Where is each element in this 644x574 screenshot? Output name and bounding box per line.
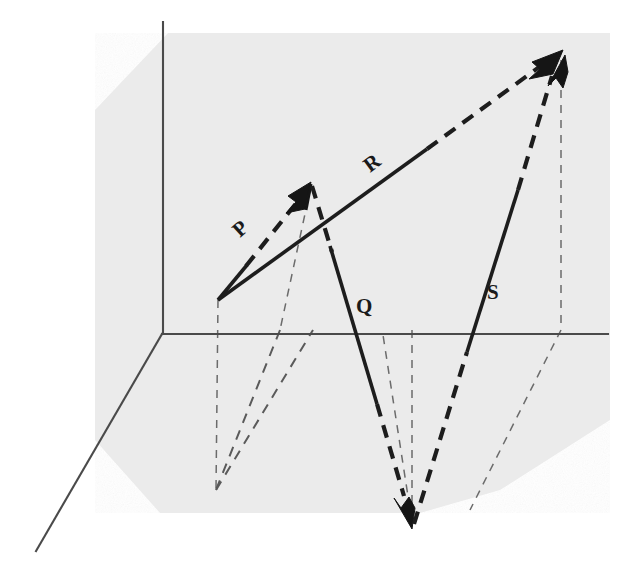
vector-diagram-canvas: P Q R S (0, 0, 644, 574)
shaded-plane (95, 33, 610, 513)
vector-label-S: S (487, 280, 499, 304)
vector-diagram-figure: P Q R S (0, 0, 644, 574)
vector-label-Q: Q (356, 294, 372, 318)
